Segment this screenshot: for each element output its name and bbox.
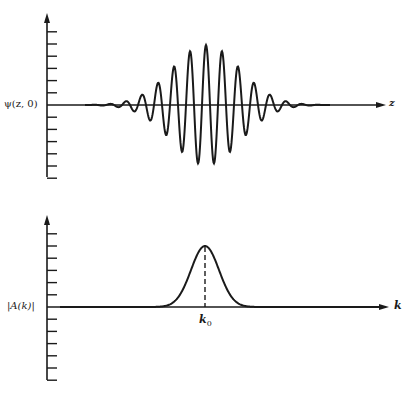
bottom-y-axis-label: |A(k)|: [7, 300, 35, 311]
amplitude-spectrum-curve: [60, 246, 380, 307]
bottom-x-axis-label: k: [394, 299, 402, 312]
wave-packet-curve: [85, 45, 330, 163]
top-panel: [44, 13, 386, 178]
k0-label-main: k: [199, 313, 207, 326]
k0-label: k0: [199, 313, 212, 328]
bottom-panel: [44, 215, 389, 380]
k0-label-sub: 0: [207, 319, 212, 328]
psi-label: ψ(z, 0): [4, 98, 38, 109]
bottom-x-axis-arrow-icon: [379, 304, 389, 310]
top-x-axis-arrow-icon: [376, 102, 386, 108]
top-y-axis-arrow-icon: [44, 13, 50, 23]
wave-packet-figure: [0, 0, 408, 395]
bottom-y-axis-arrow-icon: [44, 215, 50, 225]
top-x-axis-label: z: [389, 97, 395, 108]
top-y-axis-label: ψ(z, 0): [4, 98, 38, 109]
